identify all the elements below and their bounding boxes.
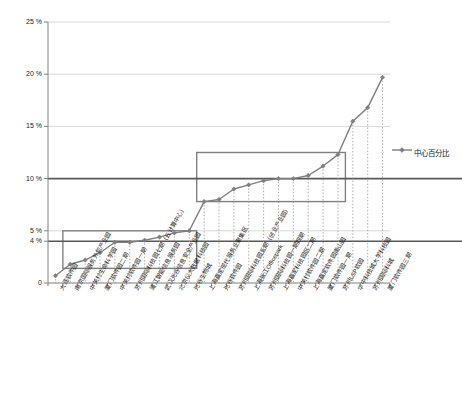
y-axis-tick-label-20: 20 % [4,70,42,77]
y-axis-tick-label-0: 0 [4,279,42,286]
line-chart-canvas [0,0,462,407]
legend-marker-diamond [400,148,405,153]
y-axis-tick-label-25: 25 % [4,18,42,25]
chart-container: 04 %5 %10 %15 %20 %25 % 大连软件园南京国际服务外包产业园… [0,0,462,407]
y-axis-tick-label-5: 5 % [4,227,42,234]
data-point-marker [380,75,384,79]
y-axis-tick-label-15: 15 % [4,122,42,129]
data-point-marker [291,176,295,180]
y-axis-tick-label-10: 10 % [4,175,42,182]
data-point-marker [276,176,280,180]
y-axis-tick-label-4: 4 % [4,237,42,244]
data-point-marker [247,183,251,187]
legend-marker-group [392,148,412,153]
legend-item-label: 中心百分比 [414,147,449,158]
